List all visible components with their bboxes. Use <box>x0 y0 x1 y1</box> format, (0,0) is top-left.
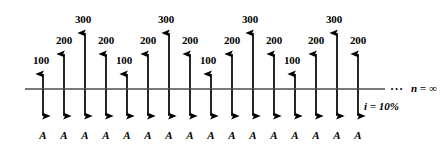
payment-value-label: A <box>228 130 235 141</box>
payment-value-label: A <box>102 130 109 141</box>
payment-value-label: A <box>144 130 151 141</box>
payment-value-label: A <box>312 130 319 141</box>
cash-flow-svg <box>0 0 448 149</box>
receipt-value-label: 200 <box>308 35 324 46</box>
payment-value-label: A <box>270 130 277 141</box>
receipt-value-label: 200 <box>182 35 198 46</box>
payment-value-label: A <box>249 130 256 141</box>
payment-value-label: A <box>60 130 67 141</box>
receipt-value-label: 200 <box>266 35 282 46</box>
receipt-value-label: 300 <box>242 14 258 25</box>
receipt-value-label: 200 <box>350 35 366 46</box>
payment-value-label: A <box>165 130 172 141</box>
horizon-label: n = ∞ <box>411 83 437 94</box>
receipt-value-label: 300 <box>75 14 91 25</box>
receipt-value-label: 200 <box>224 35 240 46</box>
receipt-value-label: 200 <box>98 35 114 46</box>
cash-flow-diagram: 1002003002001002003002001002003002001002… <box>0 0 448 149</box>
payment-value-label: A <box>81 130 88 141</box>
payment-value-label: A <box>207 130 214 141</box>
payment-value-label: A <box>333 130 340 141</box>
payment-value-label: A <box>123 130 130 141</box>
receipt-value-label: 300 <box>158 14 174 25</box>
receipt-value-label: 200 <box>56 35 72 46</box>
interest-rate-label: i = 10% <box>364 101 399 112</box>
payment-value-label: A <box>186 130 193 141</box>
receipt-value-label: 100 <box>200 55 216 66</box>
receipt-value-label: 100 <box>33 55 49 66</box>
payment-value-label: A <box>39 130 46 141</box>
payment-value-label: A <box>354 130 361 141</box>
receipt-value-label: 300 <box>326 14 342 25</box>
payment-arrows-group <box>43 89 358 116</box>
continuation-ellipsis-label: ··· <box>390 83 404 95</box>
receipt-value-label: 100 <box>116 55 132 66</box>
receipt-value-label: 200 <box>140 35 156 46</box>
payment-value-label: A <box>291 130 298 141</box>
receipt-value-label: 100 <box>284 55 300 66</box>
